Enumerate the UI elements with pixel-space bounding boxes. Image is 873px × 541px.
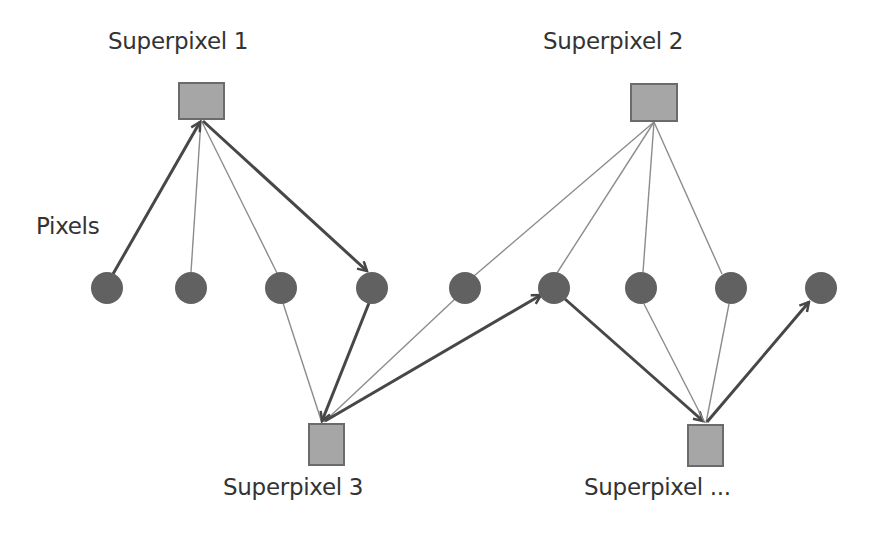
edge-p1-s1-arrow (113, 122, 200, 274)
edge-p6-s4-arrow (565, 299, 703, 421)
pixel-node-9 (805, 272, 837, 304)
edges-superpixel-3 (283, 295, 541, 423)
edge-p5-s3 (324, 298, 456, 422)
superpixel-3-node (309, 424, 344, 465)
edge-s2-p8 (654, 122, 722, 274)
superpixel-2-node (631, 84, 677, 121)
superpixel-more-label: Superpixel ... (584, 474, 731, 500)
edge-s1-p4-arrow (203, 121, 367, 271)
edge-s4-p9-arrow (707, 302, 809, 422)
pixel-node-7 (625, 272, 657, 304)
superpixel-1-label: Superpixel 1 (108, 28, 248, 54)
pixel-nodes (91, 272, 837, 304)
edge-p7-s4 (644, 304, 705, 423)
pixels-label: Pixels (36, 213, 99, 239)
pixel-node-5 (449, 272, 481, 304)
edges-superpixel-2 (474, 122, 722, 276)
edge-s1-p3 (201, 120, 277, 273)
pixel-node-1 (91, 272, 123, 304)
pixel-node-2 (175, 272, 207, 304)
edges-superpixel-more (565, 299, 809, 423)
superpixel-graph-diagram (0, 0, 873, 541)
pixel-node-3 (265, 272, 297, 304)
edges-superpixel-1 (113, 120, 367, 274)
edge-s2-p5 (474, 122, 654, 276)
edge-p3-s3 (283, 303, 322, 423)
pixel-node-8 (715, 272, 747, 304)
superpixel-2-label: Superpixel 2 (543, 28, 683, 54)
pixel-node-4 (356, 272, 388, 304)
edge-p8-s4 (706, 304, 729, 423)
superpixel-more-node (688, 425, 723, 466)
pixel-node-6 (538, 272, 570, 304)
edge-p4-s3-arrow (322, 303, 369, 421)
edge-s3-p6-arrow (325, 295, 541, 421)
edge-s2-p6 (557, 122, 654, 273)
edge-s1-p2 (191, 120, 201, 272)
superpixel-1-node (179, 83, 224, 119)
edge-s2-p7 (643, 122, 654, 272)
superpixel-3-label: Superpixel 3 (223, 474, 363, 500)
